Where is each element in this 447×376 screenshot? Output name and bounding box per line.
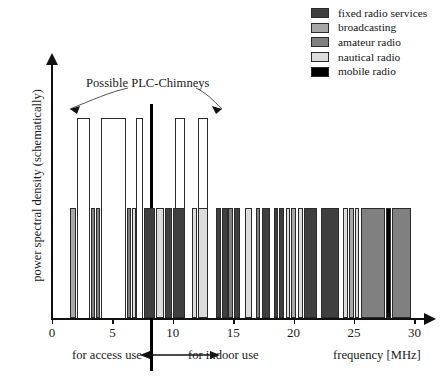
- bar-fixed: [173, 208, 185, 318]
- bar-fixed: [304, 208, 317, 318]
- bar-fixed: [165, 208, 172, 318]
- psd-frequency-allocation-chart: fixed radio servicesbroadcastingamateur …: [0, 0, 447, 376]
- bar-fixed: [234, 208, 239, 318]
- caption-for-access-use: for access use: [72, 348, 142, 363]
- bar-nautical: [245, 208, 252, 318]
- bar-amateur: [127, 208, 131, 318]
- bar-fixed: [216, 208, 221, 318]
- bar-nautical: [343, 208, 348, 318]
- bar-mobile: [386, 208, 391, 318]
- bar-fixed: [279, 208, 284, 318]
- bar-nautical: [286, 208, 290, 318]
- bar-chimney: [136, 118, 143, 318]
- bar-fixed: [262, 208, 270, 318]
- bar-fixed: [321, 208, 339, 318]
- bar-series-container: [0, 0, 447, 376]
- bar-broadcasting: [70, 208, 76, 318]
- bar-nautical: [198, 208, 208, 318]
- caption-for-indoor-use: for indoor use: [188, 348, 259, 363]
- bar-amateur: [91, 208, 95, 318]
- bar-amateur: [392, 208, 411, 318]
- bar-nautical: [132, 208, 136, 318]
- bar-amateur: [361, 208, 385, 318]
- bar-amateur: [256, 208, 260, 318]
- bar-fixed: [222, 208, 228, 318]
- bar-broadcasting: [291, 208, 296, 318]
- bar-fixed: [144, 208, 155, 318]
- bar-amateur: [96, 208, 100, 318]
- bar-chimney: [101, 118, 126, 318]
- bar-broadcasting: [349, 208, 354, 318]
- bar-nautical: [192, 208, 197, 318]
- x-axis-title: frequency [MHz]: [333, 348, 421, 363]
- bar-nautical: [298, 208, 303, 318]
- bar-nautical: [355, 208, 359, 318]
- bar-nautical: [156, 208, 164, 318]
- plc-chimneys-annotation-label: Possible PLC-Chimneys: [86, 76, 210, 91]
- bar-chimney: [77, 118, 90, 318]
- bar-fixed: [274, 208, 278, 318]
- bar-amateur: [228, 208, 233, 318]
